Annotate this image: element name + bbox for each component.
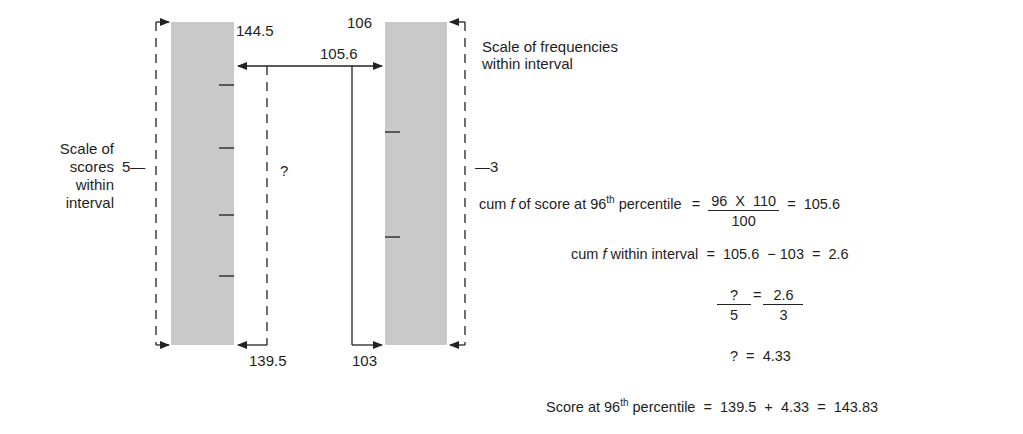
eq-text: cum <box>479 196 510 212</box>
score-span-bracket <box>156 22 169 345</box>
eq-result: 105.6 <box>804 196 840 212</box>
eq-text: within interval <box>606 246 698 262</box>
eq-text: cum <box>571 246 602 262</box>
fraction-left: ? 5 <box>717 287 751 323</box>
eq-text: Score at 96 <box>546 399 620 415</box>
fraction-numerator: ? <box>717 287 751 305</box>
equation-score-at-percentile: Score at 96th percentile = 139.5 + 4.33 … <box>546 399 878 415</box>
fraction-denominator: 100 <box>708 211 779 229</box>
eq-sup: th <box>606 194 614 205</box>
equation-cum-f-within-interval: cum f within interval = 105.6 − 103 = 2.… <box>571 246 849 262</box>
eq-equals: = <box>753 287 761 303</box>
label-line: Scale of frequencies <box>482 38 618 55</box>
fraction: 96 X 110 100 <box>708 193 779 229</box>
label-line: within interval <box>482 55 618 72</box>
frequency-top-value: 106 <box>347 14 372 31</box>
label-line: interval <box>40 194 114 212</box>
frequency-span-bracket <box>450 22 465 345</box>
equation-unknown-value: ? = 4.33 <box>730 348 791 364</box>
fraction-numerator: 96 X 110 <box>708 193 779 211</box>
frequency-offset-line <box>352 66 382 345</box>
unknown-span-value: ? <box>280 162 288 179</box>
target-value: 105.6 <box>320 45 358 62</box>
equation-cum-f-percentile: cum f of score at 96th percentile = 96 X… <box>479 187 840 223</box>
label-line: Scale of <box>40 140 114 158</box>
fraction-denominator: 3 <box>763 305 803 323</box>
label-line: scores <box>40 158 114 176</box>
score-ticks <box>219 85 234 276</box>
equation-proportion: ? 5 = 2.6 3 <box>713 287 807 323</box>
score-scale-label: Scale of scores within interval <box>40 140 114 212</box>
frequency-span-value: —3 <box>475 158 498 175</box>
frequency-scale-label: Scale of frequencies within interval <box>482 38 618 72</box>
eq-equals: = <box>692 196 700 212</box>
score-span-value: 5— <box>122 158 145 175</box>
eq-rhs: = 139.5 + 4.33 = 143.83 <box>703 399 878 415</box>
score-bottom-value: 139.5 <box>249 352 287 369</box>
frequency-bottom-value: 103 <box>352 352 377 369</box>
label-line: within <box>40 176 114 194</box>
eq-text: of score at 96 <box>514 196 606 212</box>
eq-text: percentile <box>615 196 682 212</box>
fraction-right: 2.6 3 <box>763 287 803 323</box>
unknown-span-bracket <box>238 66 267 345</box>
fraction-numerator: 2.6 <box>763 287 803 305</box>
eq-text: percentile <box>629 399 696 415</box>
frequency-ticks <box>385 132 400 237</box>
eq-rhs: = 105.6 − 103 = 2.6 <box>706 246 848 262</box>
fraction-denominator: 5 <box>717 305 751 323</box>
eq-sup: th <box>620 397 628 408</box>
span-number: 5 <box>122 158 130 175</box>
eq-equals: = <box>787 196 795 212</box>
score-top-value: 144.5 <box>236 22 274 39</box>
span-number: 3 <box>490 158 498 175</box>
